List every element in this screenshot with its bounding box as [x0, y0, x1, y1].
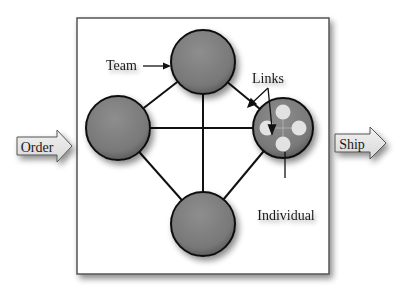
- team-network-diagram: Order Ship Team Links Individual: [0, 0, 407, 291]
- node-bottom: [171, 192, 235, 256]
- ship-label: Ship: [339, 137, 365, 152]
- node-top: [171, 30, 235, 94]
- team-label: Team: [106, 58, 137, 73]
- node-left: [86, 96, 150, 160]
- links-label: Links: [252, 71, 284, 86]
- order-label: Order: [21, 140, 54, 155]
- individual-label: Individual: [257, 208, 315, 223]
- node-individual: [253, 98, 313, 158]
